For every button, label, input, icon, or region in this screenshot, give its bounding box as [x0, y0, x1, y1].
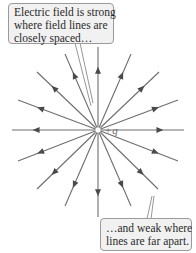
- field-line: [98, 54, 131, 130]
- arrowhead-icon: [151, 107, 159, 113]
- field-line: [65, 54, 98, 130]
- arrowhead-icon: [95, 189, 101, 196]
- arrowhead-icon: [37, 148, 45, 154]
- field-line: [37, 72, 98, 130]
- callout-text-line: lines are far apart.: [106, 235, 186, 248]
- field-line: [37, 130, 98, 189]
- callout-text-line: where field lines are: [14, 19, 108, 32]
- arrowhead-icon: [95, 67, 101, 74]
- arrowhead-icon: [156, 127, 163, 133]
- field-line: [98, 130, 158, 189]
- callout-text-line: …and weak where: [106, 222, 186, 235]
- arrowhead-icon: [37, 107, 45, 113]
- charge-label: +q: [105, 124, 118, 136]
- callout-weak-field: …and weak where lines are far apart.: [100, 218, 192, 251]
- callout-text-line: closely spaced…: [14, 32, 108, 45]
- field-line: [98, 72, 159, 130]
- callout-text-line: Electric field is strong: [14, 6, 108, 19]
- callout-strong-field: Electric field is strong where field lin…: [8, 3, 114, 44]
- field-line: [18, 100, 98, 130]
- arrowhead-icon: [33, 127, 40, 133]
- arrowhead-icon: [151, 148, 159, 154]
- point-charge-icon: [95, 127, 101, 133]
